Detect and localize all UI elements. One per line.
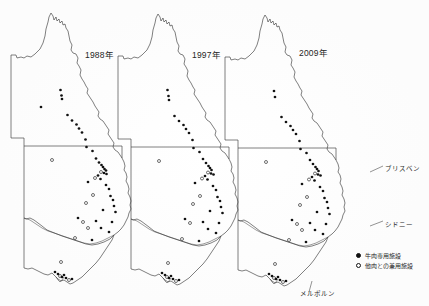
facility-dot — [216, 196, 219, 199]
facility-dot — [181, 238, 184, 241]
facility-dot — [60, 94, 63, 97]
facility-dot — [94, 177, 97, 180]
facility-dot — [173, 115, 176, 118]
legend: 牛肉専用施設 他肉との兼用施設 — [356, 250, 428, 270]
facility-dot — [215, 189, 218, 192]
facility-dot — [313, 179, 316, 182]
facility-dot — [202, 158, 205, 161]
facility-dot — [91, 150, 94, 153]
facility-dot — [289, 125, 292, 128]
facility-dot — [99, 178, 102, 181]
facility-dot — [95, 157, 98, 160]
facility-dot — [108, 188, 111, 191]
facility-dot — [168, 99, 171, 102]
facility-dot — [194, 182, 197, 185]
facility-dot — [40, 106, 43, 109]
facility-dot — [178, 279, 181, 282]
facility-dot — [188, 132, 191, 135]
facility-dot — [292, 129, 295, 132]
facility-dot — [71, 278, 74, 281]
facility-dot — [189, 222, 192, 225]
facility-dot — [305, 241, 308, 244]
facility-dot — [192, 147, 195, 150]
facility-dot — [170, 275, 173, 278]
facility-dot — [207, 228, 210, 231]
facility-dot — [184, 218, 187, 221]
facility-dot — [220, 206, 223, 209]
year-label-2009: 2009年 — [299, 46, 328, 58]
facility-dot — [199, 195, 202, 198]
facility-dot — [105, 173, 108, 176]
facility-dot — [212, 173, 215, 176]
facility-dot — [114, 211, 117, 214]
facility-dot — [98, 161, 101, 164]
facility-dot — [204, 175, 207, 178]
facility-dot — [280, 116, 283, 119]
facility-dot — [61, 276, 64, 279]
facility-dot — [74, 237, 77, 240]
facility-dot — [207, 171, 210, 174]
facility-dot — [158, 160, 161, 163]
facility-dot — [316, 211, 319, 214]
facility-dot — [309, 222, 312, 225]
facility-dot — [109, 195, 112, 198]
facility-dot — [91, 239, 94, 242]
facility-dot — [305, 152, 308, 155]
facility-dot — [63, 274, 66, 277]
facility-dot — [275, 278, 278, 281]
facility-dot — [319, 186, 322, 189]
facility-dot — [323, 197, 326, 200]
year-label-1997: 1997年 — [192, 48, 221, 60]
facility-dot — [87, 227, 90, 230]
facility-dot — [326, 201, 329, 204]
facility-dot — [325, 223, 328, 226]
open-circle-icon — [356, 263, 361, 268]
facility-dot — [273, 90, 276, 93]
facility-dot — [84, 138, 87, 141]
facility-dot — [308, 178, 311, 181]
facility-dot — [301, 183, 304, 186]
facility-dot — [311, 176, 314, 179]
facility-dot — [108, 231, 111, 234]
facility-dot — [209, 210, 212, 213]
facility-dot — [301, 229, 304, 232]
facility-dot — [317, 170, 320, 173]
facility-dot — [172, 278, 175, 281]
facility-dot — [85, 146, 88, 149]
facility-dot — [314, 172, 317, 175]
facility-dot — [274, 263, 277, 266]
facility-dot — [105, 169, 108, 172]
facility-dot — [95, 220, 98, 223]
facility-dot — [295, 133, 298, 136]
facility-dot — [265, 161, 268, 164]
facility-dot — [81, 131, 84, 134]
facility-dot — [274, 96, 277, 99]
legend-label-beef-only: 牛肉専用施設 — [365, 251, 401, 260]
facility-dot — [317, 173, 320, 176]
facility-dot — [322, 233, 325, 236]
legend-label-mixed-use: 他肉との兼用施設 — [365, 261, 413, 270]
facility-dot — [206, 178, 209, 181]
facility-dot — [322, 190, 325, 193]
facility-dot — [219, 200, 222, 203]
facility-dot — [291, 219, 294, 222]
facility-dot — [178, 120, 181, 123]
facility-dot — [299, 204, 302, 207]
facility-dot — [97, 174, 100, 177]
facility-dot — [327, 207, 330, 210]
facility-dot — [210, 172, 213, 175]
facility-dot — [161, 272, 164, 275]
facility-dot — [191, 139, 194, 142]
facility-dot — [54, 271, 57, 274]
facility-dot — [268, 273, 271, 276]
facility-dot — [82, 221, 85, 224]
facility-dot — [192, 203, 195, 206]
facility-dot — [312, 163, 315, 166]
facility-dot — [112, 199, 115, 202]
facility-dot — [60, 261, 63, 264]
facility-dot — [77, 217, 80, 220]
city-label-melbourne: メルボルン — [300, 288, 336, 298]
facility-dot — [215, 232, 218, 235]
facility-dot — [87, 181, 90, 184]
legend-item-mixed-use: 他肉との兼用施設 — [356, 260, 428, 270]
